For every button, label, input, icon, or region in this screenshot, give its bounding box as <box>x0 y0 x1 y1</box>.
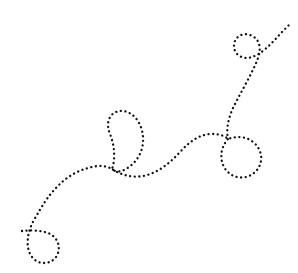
doodle-canvas <box>0 0 298 273</box>
dotted-path-artwork <box>0 0 298 273</box>
